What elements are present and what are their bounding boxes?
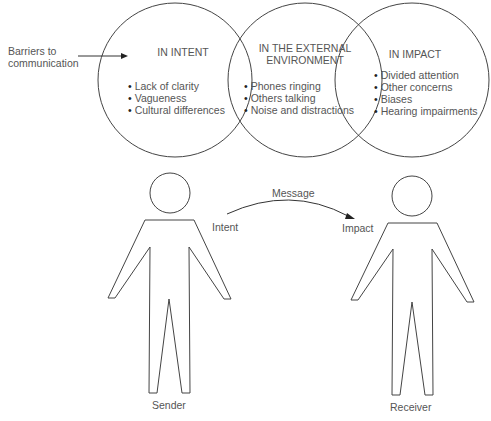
message-arrow-icon xyxy=(227,200,355,219)
receiver-figure-icon xyxy=(351,176,474,395)
message-label: Message xyxy=(272,187,315,199)
sender-label: Sender xyxy=(152,399,186,411)
list-item: Others talking xyxy=(244,92,354,104)
circle-title-external-line2: ENVIRONMENT xyxy=(245,54,365,66)
impact-barrier-list: Divided attention Other concerns Biases … xyxy=(374,69,478,117)
external-barrier-list: Phones ringing Others talking Noise and … xyxy=(244,80,354,116)
circle-title-in-intent: IN INTENT xyxy=(128,46,238,58)
barriers-label: Barriers to communication xyxy=(8,45,79,69)
list-item: Phones ringing xyxy=(244,80,354,92)
impact-label: Impact xyxy=(342,222,374,234)
intent-label: Intent xyxy=(212,221,238,233)
list-item: Other concerns xyxy=(374,81,478,93)
circle-title-in-impact: IN IMPACT xyxy=(370,48,460,60)
list-item: Divided attention xyxy=(374,69,478,81)
receiver-label: Receiver xyxy=(390,401,431,413)
list-item: Hearing impairments xyxy=(374,105,478,117)
list-item: Lack of clarity xyxy=(128,80,225,92)
list-item: Cultural differences xyxy=(128,104,225,116)
sender-figure-icon xyxy=(108,173,231,393)
list-item: Biases xyxy=(374,93,478,105)
intent-barrier-list: Lack of clarity Vagueness Cultural diffe… xyxy=(128,80,225,116)
list-item: Vagueness xyxy=(128,92,225,104)
circle-title-external-line1: IN THE EXTERNAL xyxy=(245,42,365,54)
list-item: Noise and distractions xyxy=(244,104,354,116)
